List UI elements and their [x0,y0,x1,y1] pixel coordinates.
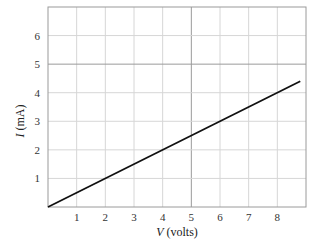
data-series [48,81,300,207]
x-tick-labels: 12345678 [74,211,281,223]
plot-frame [48,7,306,207]
y-tick-label: 1 [35,172,41,184]
grid-lines [48,7,306,207]
x-tick-label: 3 [131,211,137,223]
iv-chart: 12345678 123456 V (volts) I (mA) [0,0,323,247]
x-tick-label: 6 [217,211,223,223]
axes [48,7,306,207]
x-tick-label: 8 [275,211,281,223]
x-axis-label: V (volts) [156,225,198,239]
y-tick-label: 5 [35,58,41,70]
y-tick-label: 6 [35,30,41,42]
x-tick-label: 7 [246,211,252,223]
y-tick-labels: 123456 [35,30,41,185]
x-tick-label: 5 [189,211,195,223]
x-tick-label: 1 [74,211,80,223]
x-tick-label: 4 [160,211,166,223]
y-axis-label: I (mA) [13,105,27,139]
x-axis-unit: (volts) [164,225,198,239]
x-tick-label: 2 [103,211,109,223]
y-axis-unit: (mA) [13,105,27,134]
y-tick-label: 4 [35,87,41,99]
series-line [48,81,300,207]
y-tick-label: 3 [35,115,41,127]
y-tick-label: 2 [35,144,41,156]
